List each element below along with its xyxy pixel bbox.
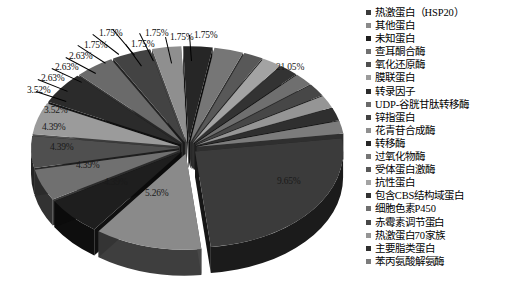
- legend-swatch-icon: [366, 246, 371, 251]
- legend-swatch-icon: [366, 220, 371, 225]
- legend-item[interactable]: 转录因子: [366, 85, 508, 98]
- legend-item[interactable]: 花青苷合成酶: [366, 124, 508, 137]
- legend-item-label: 热激蛋白（HSP20）: [375, 6, 464, 19]
- legend-item-label: 花青苷合成酶: [375, 124, 434, 137]
- legend-swatch-icon: [366, 89, 371, 94]
- legend-item[interactable]: 未知蛋白: [366, 32, 508, 45]
- legend-item[interactable]: 热激蛋白（HSP20）: [366, 6, 508, 19]
- pie-value-label: 3.52%: [44, 105, 68, 115]
- pie-value-label: 1.75%: [194, 30, 218, 40]
- legend-item-label: 转移酶: [375, 137, 405, 150]
- legend-swatch-icon: [366, 167, 371, 172]
- legend-item[interactable]: 主要脂类蛋白: [366, 242, 508, 255]
- legend-item-label: 氧化还原酶: [375, 58, 425, 71]
- legend-swatch-icon: [366, 154, 371, 159]
- pie-value-label: 5.26%: [145, 188, 169, 198]
- legend-item-label: 转录因子: [375, 85, 415, 98]
- legend-item-label: 主要脂类蛋白: [375, 242, 434, 255]
- legend-item-label: 其他蛋白: [375, 19, 415, 32]
- legend-item[interactable]: 抗性蛋白: [366, 176, 508, 189]
- pie-value-label: 4.39%: [42, 122, 66, 132]
- legend-item[interactable]: 受体蛋白激酶: [366, 163, 508, 176]
- pie-chart-plot-area: 21.05%9.65%5.26%4.39%4.39%4.39%4.39%3.52…: [0, 0, 352, 281]
- legend-item-label: 未知蛋白: [375, 32, 415, 45]
- legend-swatch-icon: [366, 23, 371, 28]
- legend-swatch-icon: [366, 62, 371, 67]
- legend-item[interactable]: 膜联蛋白: [366, 71, 508, 84]
- legend-item[interactable]: 赤霉素调节蛋白: [366, 216, 508, 229]
- legend-item-label: 热激蛋白70家族: [375, 229, 445, 242]
- legend-swatch-icon: [366, 206, 371, 211]
- legend-item-label: 细胞色素P450: [375, 202, 436, 215]
- pie-value-label: 4.39%: [76, 160, 100, 170]
- legend-item-label: 锌指蛋白: [375, 111, 415, 124]
- legend-item-label: 苯丙氨酸解氨酶: [375, 255, 444, 268]
- pie-slice[interactable]: [195, 138, 343, 247]
- legend-swatch-icon: [366, 75, 371, 80]
- legend-item-label: 受体蛋白激酶: [375, 163, 434, 176]
- pie-value-label: 9.65%: [277, 176, 301, 186]
- legend-item-label: 包含CBS结构域蛋白: [375, 189, 464, 202]
- legend-swatch-icon: [366, 233, 371, 238]
- pie-value-label: 21.05%: [276, 62, 304, 72]
- legend-item[interactable]: 过氧化物酶: [366, 150, 508, 163]
- legend-item[interactable]: UDP-谷胱甘肽转移酶: [366, 98, 508, 111]
- pie-value-label: 4.39%: [104, 177, 128, 187]
- legend-swatch-icon: [366, 128, 371, 133]
- legend-swatch-icon: [366, 102, 371, 107]
- legend-item-label: UDP-谷胱甘肽转移酶: [375, 98, 468, 111]
- legend-item[interactable]: 锌指蛋白: [366, 111, 508, 124]
- legend-swatch-icon: [366, 10, 371, 15]
- legend-swatch-icon: [366, 141, 371, 146]
- legend-item[interactable]: 查耳酮合酶: [366, 45, 508, 58]
- chart-legend: 热激蛋白（HSP20）其他蛋白未知蛋白查耳酮合酶氧化还原酶膜联蛋白转录因子UDP…: [366, 6, 508, 268]
- legend-swatch-icon: [366, 49, 371, 54]
- legend-swatch-icon: [366, 259, 371, 264]
- legend-item[interactable]: 苯丙氨酸解氨酶: [366, 255, 508, 268]
- legend-item[interactable]: 包含CBS结构域蛋白: [366, 189, 508, 202]
- legend-item[interactable]: 转移酶: [366, 137, 508, 150]
- legend-item[interactable]: 氧化还原酶: [366, 58, 508, 71]
- legend-swatch-icon: [366, 180, 371, 185]
- legend-swatch-icon: [366, 193, 371, 198]
- legend-item-label: 查耳酮合酶: [375, 45, 425, 58]
- legend-item-label: 赤霉素调节蛋白: [375, 216, 444, 229]
- legend-item-label: 膜联蛋白: [375, 71, 415, 84]
- legend-item[interactable]: 其他蛋白: [366, 19, 508, 32]
- legend-swatch-icon: [366, 115, 371, 120]
- legend-item[interactable]: 热激蛋白70家族: [366, 229, 508, 242]
- pie-chart-svg: [0, 0, 352, 281]
- legend-item[interactable]: 细胞色素P450: [366, 202, 508, 215]
- legend-swatch-icon: [366, 36, 371, 41]
- legend-item-label: 抗性蛋白: [375, 176, 415, 189]
- pie-value-label: 3.52%: [27, 85, 51, 95]
- pie-chart-figure: 21.05%9.65%5.26%4.39%4.39%4.39%4.39%3.52…: [0, 0, 508, 281]
- legend-item-label: 过氧化物酶: [375, 150, 425, 163]
- pie-value-label: 4.39%: [50, 142, 74, 152]
